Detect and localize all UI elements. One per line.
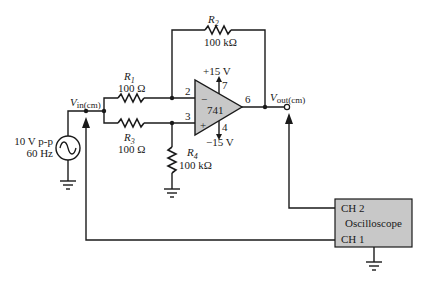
vpos-supply-label: +15 V — [203, 65, 231, 77]
source-amplitude: 10 V p-p — [14, 135, 53, 147]
pin-7-label: 7 — [222, 79, 228, 91]
r2-value: 100 kΩ — [204, 36, 237, 48]
pin-3-label: 3 — [185, 110, 191, 122]
oscilloscope-label: Oscilloscope — [345, 217, 402, 229]
r1-value: 100 Ω — [118, 82, 145, 94]
pin-4-label: 4 — [222, 121, 228, 133]
probe-arrow-icon — [82, 117, 90, 128]
probe-arrow-icon — [285, 113, 293, 124]
source-frequency: 60 Hz — [26, 147, 53, 159]
resistor-r1 — [118, 94, 144, 102]
pin-2-label: 2 — [185, 85, 191, 97]
circuit-diagram: R2 100 kΩ R1 100 Ω R3 100 Ω Vin(cm) R4 1… — [0, 0, 424, 284]
vout-terminal — [284, 104, 289, 109]
vin-label: Vin(cm) — [70, 96, 101, 110]
resistor-r3 — [118, 119, 144, 127]
ch2-label: CH 2 — [341, 202, 365, 214]
pin-6-label: 6 — [245, 93, 251, 105]
ac-source — [56, 136, 80, 189]
ch1-label: CH 1 — [341, 233, 365, 245]
r3-value: 100 Ω — [118, 143, 145, 155]
ground-icon — [60, 181, 76, 189]
ground-icon — [366, 262, 382, 270]
opamp-part-label: 741 — [207, 104, 224, 116]
vneg-supply-label: −15 V — [206, 136, 234, 148]
vout-label: Vout(cm) — [270, 91, 305, 105]
resistor-r4 — [168, 147, 176, 173]
noninverting-sign: + — [200, 119, 206, 131]
probe-ch2 — [285, 113, 335, 208]
r4-value: 100 kΩ — [179, 159, 212, 171]
r4-branch — [164, 123, 180, 197]
ground-icon — [164, 189, 180, 197]
